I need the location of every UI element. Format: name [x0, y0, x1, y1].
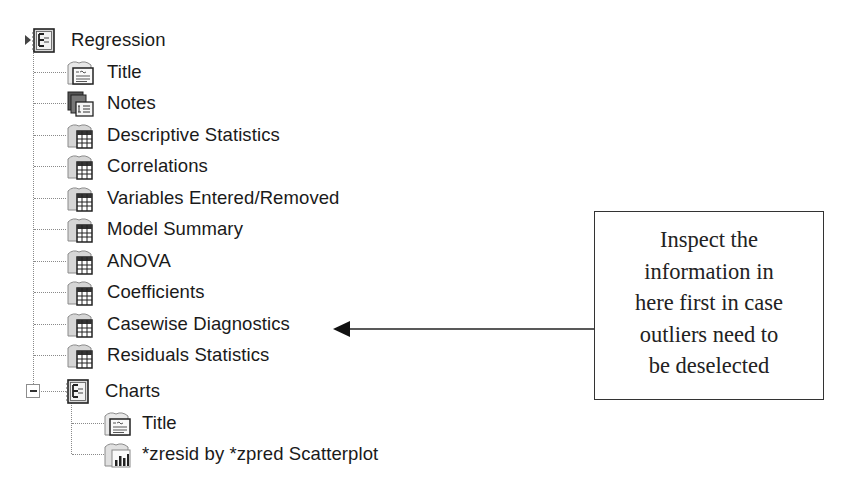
tree-connector — [34, 198, 66, 199]
chart-icon — [104, 441, 130, 467]
notes-icon — [67, 90, 93, 116]
tree-connector — [34, 229, 66, 230]
output-book-icon — [66, 378, 92, 404]
pivot-table-icon — [67, 122, 93, 148]
tree-connector — [34, 324, 66, 325]
tree-node-residuals-statistics[interactable]: Residuals Statistics — [67, 341, 269, 369]
tree-connector — [34, 72, 66, 73]
tree-connector — [34, 292, 66, 293]
tree-connector — [34, 103, 66, 104]
callout-text-line: information in — [595, 256, 823, 288]
tree-node-descriptive-statistics[interactable]: Descriptive Statistics — [67, 121, 280, 149]
selected-item-caret-icon — [25, 35, 31, 45]
tree-node-label: Descriptive Statistics — [107, 121, 280, 149]
tree-connector — [72, 454, 104, 455]
tree-node-scatterplot[interactable]: *zresid by *zpred Scatterplot — [104, 440, 378, 468]
tree-connector — [34, 355, 66, 356]
tree-node-notes[interactable]: Notes — [67, 89, 156, 117]
tree-node-label: ANOVA — [107, 247, 171, 275]
callout-arrow-icon — [330, 318, 596, 340]
pivot-table-icon — [67, 185, 93, 211]
tree-connector — [34, 135, 66, 136]
pivot-table-icon — [67, 279, 93, 305]
title-page-icon — [104, 410, 130, 436]
pivot-table-icon — [67, 216, 93, 242]
output-book-icon — [32, 27, 58, 53]
tree-node-model-summary[interactable]: Model Summary — [67, 215, 243, 243]
output-navigator-tree: Regression Title Notes — [0, 0, 560, 489]
tree-node-anova[interactable]: ANOVA — [67, 247, 171, 275]
tree-node-label: Residuals Statistics — [107, 341, 269, 369]
tree-node-label: Title — [142, 409, 177, 437]
tree-node-label: Casewise Diagnostics — [107, 310, 290, 338]
tree-node-casewise-diagnostics[interactable]: Casewise Diagnostics — [67, 310, 290, 338]
tree-node-coefficients[interactable]: Coefficients — [67, 278, 205, 306]
tree-connector — [41, 391, 66, 392]
pivot-table-icon — [67, 248, 93, 274]
callout-text-line: be deselected — [595, 350, 823, 382]
callout-text-line: outliers need to — [595, 319, 823, 351]
annotation-callout: Inspect the information in here first in… — [594, 211, 824, 400]
tree-node-label: Notes — [107, 89, 156, 117]
tree-node-charts[interactable]: Charts — [66, 377, 160, 405]
callout-text-line: here first in case — [595, 287, 823, 319]
tree-node-variables-entered-removed[interactable]: Variables Entered/Removed — [67, 184, 340, 212]
tree-node-label: *zresid by *zpred Scatterplot — [142, 440, 378, 468]
tree-node-label: Model Summary — [107, 215, 243, 243]
tree-node-charts-title[interactable]: Title — [104, 409, 177, 437]
tree-connector — [34, 166, 66, 167]
pivot-table-icon — [67, 342, 93, 368]
callout-text-line: Inspect the — [595, 224, 823, 256]
tree-node-label: Charts — [105, 377, 160, 405]
tree-node-regression[interactable]: Regression — [32, 26, 166, 54]
tree-connector-root — [33, 50, 34, 392]
tree-node-label: Correlations — [107, 152, 208, 180]
collapse-charts-button[interactable] — [26, 384, 40, 398]
pivot-table-icon — [67, 153, 93, 179]
tree-node-label: Variables Entered/Removed — [107, 184, 340, 212]
pivot-table-icon — [67, 311, 93, 337]
tree-connector-charts — [71, 402, 72, 454]
tree-node-title[interactable]: Title — [67, 58, 142, 86]
title-page-icon — [67, 59, 93, 85]
tree-node-label: Coefficients — [107, 278, 205, 306]
tree-connector — [34, 261, 66, 262]
tree-node-label: Title — [107, 58, 142, 86]
tree-node-correlations[interactable]: Correlations — [67, 152, 208, 180]
tree-node-label: Regression — [71, 26, 166, 54]
tree-connector — [72, 423, 104, 424]
